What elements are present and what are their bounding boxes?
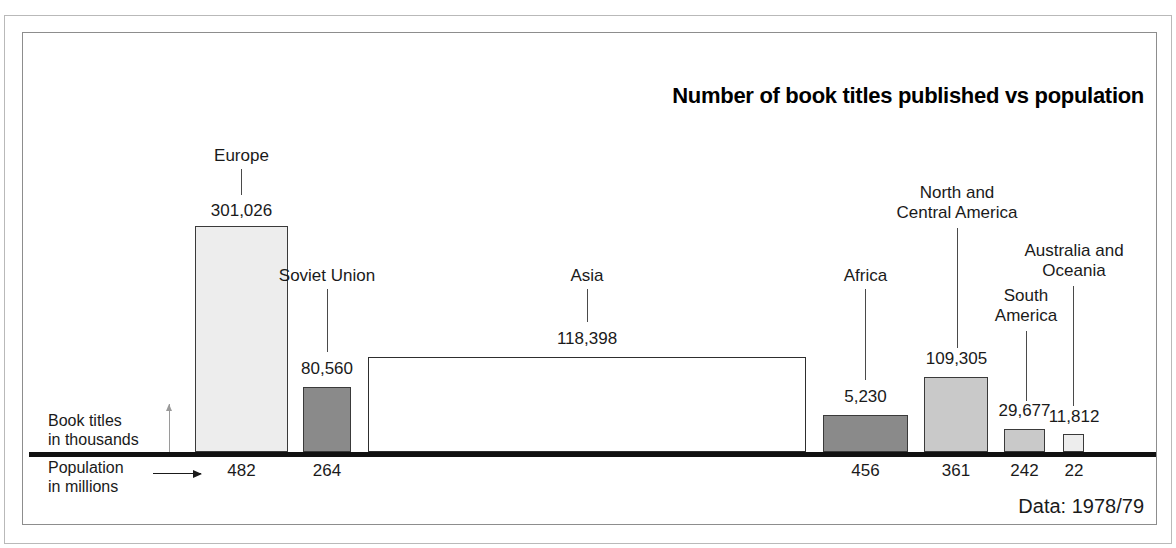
leader-line-north-and-central-america bbox=[957, 228, 958, 348]
leader-line-africa bbox=[865, 289, 866, 380]
bar-europe[interactable] bbox=[195, 226, 288, 452]
bar-africa[interactable] bbox=[823, 415, 908, 452]
y-axis-arrow-icon bbox=[169, 404, 170, 452]
bar-label-europe: Europe bbox=[195, 146, 288, 166]
leader-line-soviet-union bbox=[327, 289, 328, 352]
bar-value-asia: 118,398 bbox=[527, 329, 647, 349]
bar-label-soviet-union: Soviet Union bbox=[261, 266, 393, 286]
bar-value-africa: 5,230 bbox=[813, 387, 918, 407]
population-value-africa: 456 bbox=[823, 461, 908, 481]
plot-area: Europe 301,026 482 Soviet Union 80,560 2… bbox=[23, 33, 1158, 526]
chart-panel: Number of book titles published vs popul… bbox=[22, 32, 1157, 525]
source-note: Data: 1978/79 bbox=[1018, 495, 1144, 518]
bar-value-north-and-central-america: 109,305 bbox=[899, 349, 1014, 369]
leader-line-south-america bbox=[1026, 331, 1027, 401]
bar-label-australia-and-oceania: Australia andOceania bbox=[1001, 241, 1147, 281]
bar-australia-and-oceania[interactable] bbox=[1063, 434, 1084, 452]
bar-value-europe: 301,026 bbox=[180, 201, 303, 221]
population-value-soviet-union: 264 bbox=[303, 461, 351, 481]
bar-south-america[interactable] bbox=[1004, 429, 1045, 452]
y-axis-caption-line2: in thousands bbox=[48, 431, 139, 448]
bar-label-africa: Africa bbox=[818, 266, 913, 286]
bar-label-north-and-central-america: North andCentral America bbox=[881, 183, 1033, 223]
bar-value-soviet-union: 80,560 bbox=[281, 359, 373, 379]
bar-asia[interactable] bbox=[368, 357, 806, 452]
bar-soviet-union[interactable] bbox=[303, 387, 351, 452]
x-axis-caption-line2: in millions bbox=[48, 478, 118, 495]
bar-label-south-america: SouthAmerica bbox=[978, 286, 1074, 326]
population-value-south-america: 242 bbox=[1004, 461, 1045, 481]
y-axis-caption-line1: Book titles bbox=[48, 412, 122, 429]
population-value-europe: 482 bbox=[195, 461, 288, 481]
y-axis-caption: Book titles in thousands bbox=[48, 411, 139, 449]
population-value-australia-and-oceania: 22 bbox=[1059, 461, 1089, 481]
leader-line-asia bbox=[587, 289, 588, 322]
bar-value-australia-and-oceania: 11,812 bbox=[1024, 407, 1124, 427]
leader-line-australia-and-oceania bbox=[1073, 286, 1074, 406]
bar-label-asia: Asia bbox=[537, 266, 637, 286]
x-axis-caption-line1: Population bbox=[48, 459, 124, 476]
x-axis-arrow-icon bbox=[153, 473, 201, 474]
population-value-north-and-central-america: 361 bbox=[924, 461, 988, 481]
leader-line-europe bbox=[241, 169, 242, 195]
x-axis-caption: Population in millions bbox=[48, 458, 124, 496]
population-axis-baseline bbox=[29, 452, 1156, 457]
